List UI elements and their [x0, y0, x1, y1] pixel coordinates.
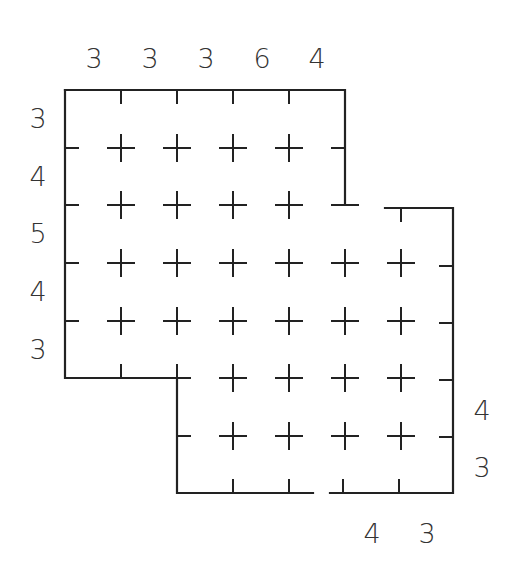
- left-clue: 4: [29, 276, 46, 307]
- right-clue: 4: [473, 395, 490, 426]
- top-clue: 3: [141, 43, 158, 74]
- left-clue: 4: [29, 161, 46, 192]
- left-clues: 3 4 5 4 3: [29, 103, 46, 365]
- grid-crosses: [107, 134, 415, 450]
- bottom-clue: 3: [418, 518, 435, 549]
- puzzle-board: 3 3 3 6 4 3 4 5 4 3 4 3 4 3: [0, 0, 524, 575]
- top-clues: 3 3 3 6 4: [85, 43, 325, 74]
- edge-ticks-top: [121, 90, 401, 222]
- right-clues: 4 3: [473, 395, 490, 483]
- edge-ticks-bottom: [121, 364, 399, 493]
- border-right-block: [330, 208, 453, 493]
- border-upper-block: [65, 90, 345, 493]
- edge-ticks-right: [331, 148, 453, 437]
- top-clue: 3: [85, 43, 102, 74]
- top-clue: 6: [253, 43, 270, 74]
- left-clue: 3: [29, 334, 46, 365]
- bottom-clues: 4 3: [363, 518, 435, 549]
- left-clue: 3: [29, 103, 46, 134]
- left-clue: 5: [29, 218, 46, 249]
- top-clue: 3: [197, 43, 214, 74]
- edge-ticks-left: [65, 148, 191, 436]
- right-clue: 3: [473, 452, 490, 483]
- bottom-clue: 4: [363, 518, 380, 549]
- top-clue: 4: [308, 43, 325, 74]
